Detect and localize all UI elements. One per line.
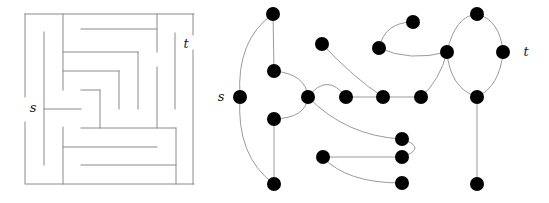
graph-source-label: s xyxy=(218,89,225,104)
graph-edge xyxy=(308,97,402,139)
graph-edge xyxy=(447,14,477,52)
graph-edge xyxy=(240,97,274,184)
maze-diagram xyxy=(25,14,194,184)
graph-node-h2 xyxy=(414,90,428,104)
graph-node-e xyxy=(267,177,281,191)
graph-edges xyxy=(240,14,503,184)
graph-node-l xyxy=(470,7,484,21)
graph-edge xyxy=(447,52,477,97)
graph-edge xyxy=(273,14,274,71)
graph-edge xyxy=(240,14,273,97)
graph-nodes xyxy=(233,7,510,191)
graph-node-a xyxy=(266,7,280,21)
graph-node-n xyxy=(470,90,484,104)
graph-node-p xyxy=(395,150,409,164)
graph-node-g xyxy=(339,90,353,104)
graph-target-label: t xyxy=(523,44,529,59)
graph-node-m xyxy=(496,45,510,59)
graph-node-k xyxy=(440,45,454,59)
maze-target-label: t xyxy=(183,36,189,51)
graph-node-d xyxy=(267,112,281,126)
graph-node-b xyxy=(267,64,281,78)
graph-edge xyxy=(421,52,447,97)
graph-edge xyxy=(379,48,447,56)
maze-source-label: s xyxy=(30,100,37,115)
graph-node-f xyxy=(315,37,329,51)
graph-node-i xyxy=(406,15,420,29)
graph-node-r xyxy=(395,176,409,190)
figure-canvas: s t s t xyxy=(0,0,549,203)
graph-node-o xyxy=(395,132,409,146)
graph-edge xyxy=(477,52,503,97)
graph-node-j xyxy=(372,41,386,55)
graph-node-c xyxy=(301,90,315,104)
graph-node-h xyxy=(376,90,390,104)
graph-node-s0 xyxy=(233,90,247,104)
graph-node-t2 xyxy=(470,177,484,191)
graph-node-q xyxy=(316,150,330,164)
graph-edge xyxy=(323,157,402,183)
